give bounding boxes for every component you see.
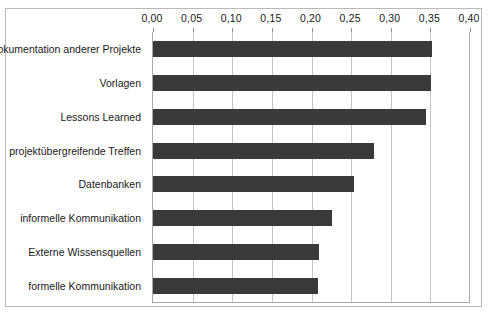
x-tickmark xyxy=(153,28,154,32)
category-label: Datenbanken xyxy=(79,178,141,190)
chart-frame: 0,000,050,100,150,200,250,300,350,40 Dok… xyxy=(5,8,482,307)
x-tick-label: 0,00 xyxy=(141,12,162,24)
x-tickmark xyxy=(272,28,273,32)
x-axis-tick-labels: 0,000,050,100,150,200,250,300,350,40 xyxy=(6,9,483,31)
bar xyxy=(153,75,431,91)
x-tick-label: 0,25 xyxy=(340,12,361,24)
x-tickmark xyxy=(430,28,431,32)
x-tick-label: 0,10 xyxy=(221,12,242,24)
x-tickmark xyxy=(232,28,233,32)
gridline xyxy=(351,32,352,302)
bar xyxy=(153,109,426,125)
x-tick-label: 0,40 xyxy=(458,12,479,24)
x-tickmark xyxy=(351,28,352,32)
category-label: Dokumentation anderer Projekte xyxy=(0,43,141,55)
category-label: informelle Kommunikation xyxy=(20,212,141,224)
gridline xyxy=(312,32,313,302)
x-tick-label: 0,15 xyxy=(260,12,281,24)
x-tickmark xyxy=(470,28,471,32)
category-label: Vorlagen xyxy=(100,77,141,89)
category-label: Lessons Learned xyxy=(60,111,141,123)
gridline xyxy=(272,32,273,302)
category-label: Externe Wissensquellen xyxy=(28,246,141,258)
bar xyxy=(153,210,332,226)
gridline xyxy=(193,32,194,302)
gridline xyxy=(430,32,431,302)
x-tick-label: 0,30 xyxy=(379,12,400,24)
plot-area xyxy=(152,32,470,303)
x-tickmark xyxy=(391,28,392,32)
y-axis-category-labels: Dokumentation anderer ProjekteVorlagenLe… xyxy=(6,31,147,308)
x-tick-label: 0,35 xyxy=(419,12,440,24)
x-tickmark xyxy=(312,28,313,32)
category-label: projektübergreifende Treffen xyxy=(9,145,141,157)
bar xyxy=(153,41,432,57)
gridline xyxy=(391,32,392,302)
bar xyxy=(153,176,354,192)
bar xyxy=(153,143,374,159)
bar xyxy=(153,244,319,260)
bar xyxy=(153,278,318,294)
x-tickmark xyxy=(193,28,194,32)
category-label: formelle Kommunikation xyxy=(28,280,141,292)
gridline xyxy=(232,32,233,302)
x-tick-label: 0,05 xyxy=(181,12,202,24)
x-tick-label: 0,20 xyxy=(300,12,321,24)
